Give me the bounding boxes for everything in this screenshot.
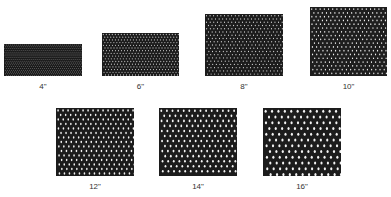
- label-6: 6": [121, 82, 161, 91]
- swatch-10: [310, 7, 387, 76]
- label-14: 14": [178, 182, 218, 191]
- label-16: 16": [282, 182, 322, 191]
- mesh-pattern: [102, 33, 179, 76]
- label-12: 12": [75, 182, 115, 191]
- mesh-pattern: [310, 7, 387, 76]
- mesh-pattern: [4, 44, 82, 76]
- mesh-pattern: [205, 14, 283, 76]
- label-4: 4": [23, 82, 63, 91]
- label-10: 10": [329, 82, 369, 91]
- label-8: 8": [224, 82, 264, 91]
- swatch-8: [205, 14, 283, 76]
- swatch-16: [263, 108, 341, 176]
- swatch-4: [4, 44, 82, 76]
- swatch-6: [102, 33, 179, 76]
- mesh-pattern: [56, 108, 134, 176]
- swatch-14: [159, 108, 237, 176]
- mesh-pattern: [159, 108, 237, 176]
- mesh-pattern: [263, 108, 341, 176]
- swatch-12: [56, 108, 134, 176]
